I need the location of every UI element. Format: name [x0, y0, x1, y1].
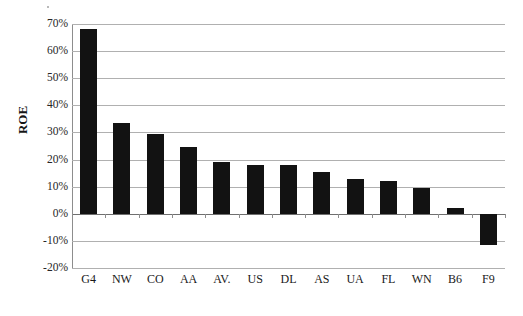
x-axis-tick — [338, 214, 339, 218]
x-axis-tick — [205, 214, 206, 218]
plot-area — [72, 24, 505, 268]
bar — [447, 208, 464, 213]
y-axis-tick-labels: 70%60%50%40%30%20%10%0%-10%-20% — [22, 0, 68, 316]
x-axis-tick — [305, 214, 306, 218]
x-axis-tick — [272, 214, 273, 218]
bar — [180, 147, 197, 213]
bar — [213, 162, 230, 214]
bar — [80, 29, 97, 213]
x-axis-tick — [472, 214, 473, 218]
gridline — [72, 241, 505, 242]
y-tick-label: 50% — [28, 72, 68, 83]
y-tick-label: 30% — [28, 126, 68, 137]
gridline — [72, 51, 505, 52]
bar — [113, 123, 130, 214]
y-tick-label: 10% — [28, 181, 68, 192]
gridline — [72, 132, 505, 133]
x-axis-label: F9 — [468, 272, 508, 287]
x-axis-tick — [72, 214, 73, 218]
x-axis-tick — [505, 214, 506, 218]
x-axis-tick — [372, 214, 373, 218]
x-axis-tick — [438, 214, 439, 218]
bar — [347, 179, 364, 214]
y-tick-label: 0% — [28, 208, 68, 219]
x-axis-tick — [139, 214, 140, 218]
gridline — [72, 105, 505, 106]
bar — [147, 134, 164, 214]
bar — [280, 165, 297, 214]
y-tick-label: 20% — [28, 154, 68, 165]
bar — [413, 188, 430, 214]
zero-baseline — [72, 214, 505, 215]
bar — [247, 165, 264, 214]
y-tick-label: -20% — [28, 262, 68, 273]
gridline — [72, 268, 505, 269]
bar — [380, 181, 397, 214]
bar — [480, 214, 497, 245]
bar — [313, 172, 330, 214]
roe-bar-chart: ROE 70%60%50%40%30%20%10%0%-10%-20% G4NW… — [0, 0, 523, 316]
y-tick-label: 40% — [28, 99, 68, 110]
x-axis-tick — [105, 214, 106, 218]
x-axis-tick — [239, 214, 240, 218]
x-axis-tick — [172, 214, 173, 218]
y-tick-label: -10% — [28, 235, 68, 246]
x-axis-tick — [405, 214, 406, 218]
gridline — [72, 24, 505, 25]
y-tick-label: 60% — [28, 45, 68, 56]
gridline — [72, 78, 505, 79]
y-tick-label: 70% — [28, 18, 68, 29]
gridline — [72, 160, 505, 161]
